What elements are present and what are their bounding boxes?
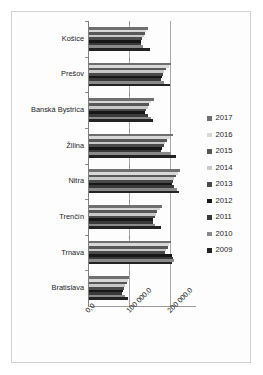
bar [89,155,176,158]
bar [89,119,153,122]
legend-label: 2009 [216,246,233,254]
category-label: Nitra [68,177,84,184]
legend-label: 2017 [216,114,233,122]
legend-swatch-icon [207,133,212,138]
y-axis-tick [85,128,88,129]
y-axis-tick [85,164,88,165]
category-label: Žilina [66,142,84,149]
legend-item-2010[interactable]: 2010 [207,226,251,243]
y-axis-tick [85,235,88,236]
bar-group: Nitra [89,164,171,200]
legend-swatch-icon [207,232,212,237]
bar [89,226,161,229]
category-label: Trenčín [59,213,84,220]
legend-item-2015[interactable]: 2015 [207,143,251,160]
y-axis-tick [85,270,88,271]
bar [89,262,172,265]
category-label: Prešov [61,70,84,77]
legend-swatch-icon [207,182,212,187]
legend-swatch-icon [207,215,212,220]
legend-label: 2016 [216,131,233,139]
legend-label: 2010 [216,230,233,238]
legend-item-2013[interactable]: 2013 [207,176,251,193]
bar-group: Košice [89,21,171,57]
legend-label: 2013 [216,180,233,188]
legend-swatch-icon [207,149,212,154]
category-label: Banská Bystrica [31,106,84,113]
legend-swatch-icon [207,116,212,121]
legend-label: 2014 [216,164,233,172]
bar-group: Žilina [89,128,171,164]
bar [89,297,128,300]
legend-label: 2015 [216,147,233,155]
chart-legend: 201720162015201420132012201120102009 [207,110,251,259]
category-label: Bratislava [52,284,84,291]
legend-swatch-icon [207,248,212,253]
legend-swatch-icon [207,166,212,171]
bar [89,191,179,194]
legend-item-2017[interactable]: 2017 [207,110,251,127]
y-axis-tick [85,92,88,93]
legend-item-2009[interactable]: 2009 [207,242,251,259]
category-label: Košice [62,35,84,42]
bar-group: Banská Bystrica [89,92,171,128]
category-label: Trnava [61,249,84,256]
legend-label: 2012 [216,197,233,205]
bar [89,84,170,87]
legend-item-2016[interactable]: 2016 [207,127,251,144]
legend-item-2014[interactable]: 2014 [207,160,251,177]
y-axis-tick [85,57,88,58]
bar-group: Trenčín [89,199,171,235]
legend-item-2012[interactable]: 2012 [207,193,251,210]
legend-label: 2011 [216,213,232,221]
bar [89,48,150,51]
y-axis-tick [85,21,88,22]
y-axis-tick [85,199,88,200]
bar-group: Trnava [89,235,171,271]
bar-group: Prešov [89,57,171,93]
chart-figure: KošicePrešovBanská BystricaŽilinaNitraTr… [0,0,263,375]
legend-item-2011[interactable]: 2011 [207,209,251,226]
legend-swatch-icon [207,199,212,204]
